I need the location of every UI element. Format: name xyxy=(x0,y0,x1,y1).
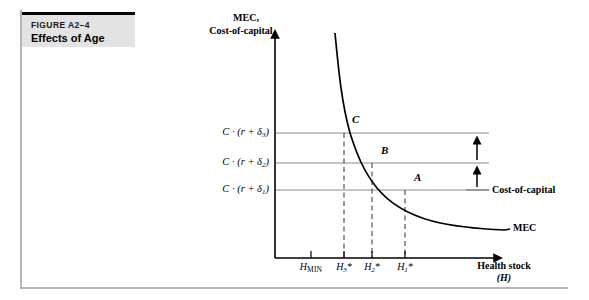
x-tick-label-hmin: HMIN xyxy=(291,261,331,274)
chart-plot xyxy=(0,0,589,300)
curve-point-label-c: C xyxy=(352,113,359,125)
mec-curve xyxy=(335,33,505,230)
y-value-label-delta2-close: ) xyxy=(266,156,270,167)
x-tick-label-h1: H1* xyxy=(389,261,421,274)
y-axis-title-line1: MEC, xyxy=(206,12,286,23)
y-value-label-delta3-close: ) xyxy=(266,126,270,137)
y-axis-title-line2: Cost-of-capital xyxy=(196,25,286,36)
y-value-label-delta2: C · (r + δ2) xyxy=(185,156,269,169)
x-tick-label-h1-star: * xyxy=(408,261,413,272)
figure-page: FIGURE A2–4 Effects of Age xyxy=(0,0,589,300)
curve-point-label-b: B xyxy=(381,144,388,156)
x-tick-label-h2-star: * xyxy=(375,261,380,272)
x-tick-label-hmin-sub: MIN xyxy=(307,265,322,274)
x-tick-label-h3-star: * xyxy=(347,261,352,272)
y-value-label-delta3: C · (r + δ3) xyxy=(185,126,269,139)
x-axis-title-line2: (H) xyxy=(462,272,546,283)
y-value-label-delta1-text: C · (r + δ xyxy=(222,183,262,194)
curve-point-label-a: A xyxy=(414,171,421,183)
y-value-label-delta1-close: ) xyxy=(266,183,270,194)
x-tick-label-h2: H2* xyxy=(356,261,388,274)
cost-of-capital-label: Cost-of-capital xyxy=(492,184,555,195)
mec-label-leader xyxy=(505,229,510,230)
y-value-label-delta1: C · (r + δ1) xyxy=(185,183,269,196)
x-axis-title-line1: Health stock xyxy=(462,260,546,271)
y-value-label-delta2-text: C · (r + δ xyxy=(222,156,262,167)
y-value-label-delta3-text: C · (r + δ xyxy=(222,126,262,137)
mec-curve-label: MEC xyxy=(513,222,536,233)
x-tick-label-hmin-base: H xyxy=(300,261,307,272)
